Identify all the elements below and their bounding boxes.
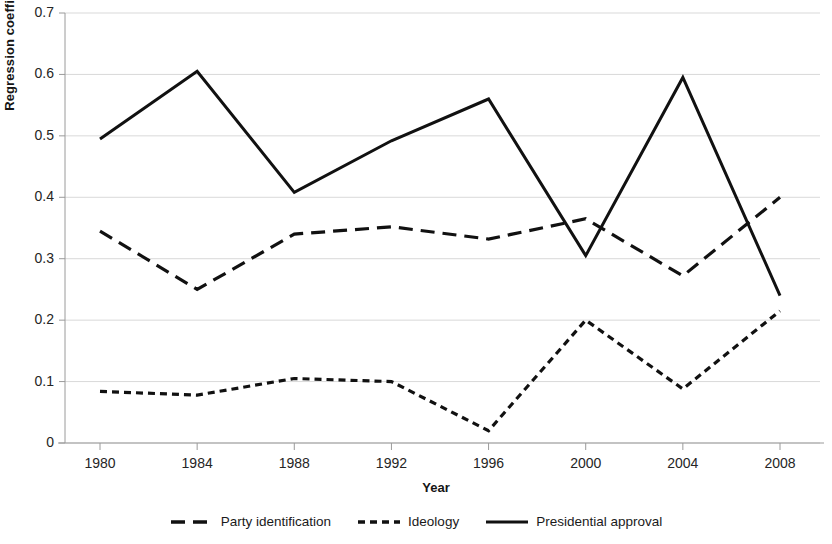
x-tick-label: 1980 — [70, 455, 130, 471]
x-tick-label: 1988 — [264, 455, 324, 471]
legend-label: Presidential approval — [536, 514, 662, 529]
x-axis-title: Year — [20, 480, 832, 495]
y-tick-label: 0.1 — [14, 373, 54, 389]
series-line-0 — [100, 197, 780, 289]
series-line-1 — [100, 311, 780, 431]
legend-line-swatch-icon — [170, 515, 214, 529]
x-tick-label: 2000 — [556, 455, 616, 471]
x-tick-label: 1996 — [459, 455, 519, 471]
y-tick-label: 0.2 — [14, 311, 54, 327]
regression-coefficient-line-chart: Regression coefficient 00.10.20.30.40.50… — [0, 0, 832, 544]
legend-line-swatch-icon — [485, 515, 529, 529]
x-tick-label: 2008 — [750, 455, 810, 471]
legend-item: Ideology — [357, 514, 459, 529]
legend-item: Party identification — [170, 514, 331, 529]
y-tick-label: 0.6 — [14, 65, 54, 81]
legend-label: Party identification — [221, 514, 331, 529]
y-tick-label: 0 — [14, 434, 54, 450]
chart-legend: Party identificationIdeologyPresidential… — [0, 514, 832, 529]
series-line-2 — [100, 71, 780, 295]
legend-line-swatch-icon — [357, 515, 401, 529]
x-tick-label: 1992 — [361, 455, 421, 471]
y-tick-label: 0.3 — [14, 250, 54, 266]
x-tick-label: 1984 — [167, 455, 227, 471]
y-tick-label: 0.5 — [14, 127, 54, 143]
y-tick-label: 0.4 — [14, 188, 54, 204]
y-tick-label: 0.7 — [14, 4, 54, 20]
x-tick-label: 2004 — [653, 455, 713, 471]
legend-item: Presidential approval — [485, 514, 662, 529]
legend-label: Ideology — [408, 514, 459, 529]
